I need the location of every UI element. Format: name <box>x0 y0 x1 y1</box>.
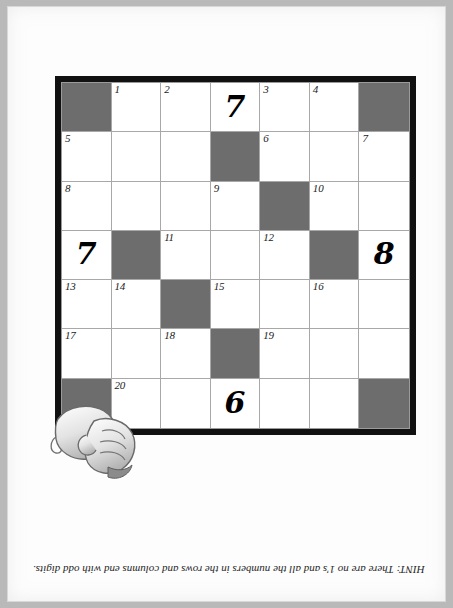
grid-clue-number: 8 <box>65 182 70 195</box>
grid-cell[interactable]: 11 <box>161 231 211 280</box>
grid-given-digit: 7 <box>62 231 111 279</box>
grid-cell[interactable] <box>161 132 211 181</box>
grid-cell[interactable] <box>112 329 162 378</box>
grid-clue-number: 12 <box>263 231 274 244</box>
grid-cell[interactable] <box>112 132 162 181</box>
grid-cell[interactable]: 7 <box>62 231 112 280</box>
grid-cell[interactable]: 18 <box>161 329 211 378</box>
puzzle-grid[interactable]: 12734567891071112813141516171819206 <box>61 82 410 429</box>
grid-given-digit: 6 <box>211 379 260 428</box>
grid-given-digit: 8 <box>359 231 409 279</box>
grid-cell[interactable] <box>310 329 360 378</box>
grid-cell[interactable] <box>359 329 409 378</box>
grid-cell[interactable]: 5 <box>62 132 112 181</box>
grid-cell[interactable]: 6 <box>211 379 261 428</box>
grid-cell-blocked <box>211 132 261 181</box>
grid-cell[interactable] <box>310 132 360 181</box>
page-frame: 12734567891071112813141516171819206 <box>0 0 453 608</box>
grid-cell[interactable]: 2 <box>161 83 211 132</box>
grid-cell[interactable] <box>359 280 409 329</box>
grid-cell-blocked <box>359 379 409 428</box>
grid-cell-blocked <box>359 83 409 132</box>
grid-given-digit: 7 <box>211 83 260 131</box>
grid-clue-number: 18 <box>164 329 175 342</box>
grid-clue-number: 6 <box>263 132 268 145</box>
grid-cell[interactable]: 14 <box>112 280 162 329</box>
grid-clue-number: 14 <box>115 280 126 293</box>
grid-cell[interactable]: 4 <box>310 83 360 132</box>
grid-cell-blocked <box>310 231 360 280</box>
grid-cell[interactable]: 6 <box>260 132 310 181</box>
grid-cell[interactable] <box>260 379 310 428</box>
grid-cell[interactable]: 8 <box>62 182 112 231</box>
grid-clue-number: 20 <box>115 379 126 392</box>
grid-clue-number: 11 <box>164 231 174 244</box>
grid-clue-number: 1 <box>115 83 120 96</box>
grid-clue-number: 13 <box>65 280 76 293</box>
grid-cell[interactable]: 7 <box>211 83 261 132</box>
puzzle-grid-border: 12734567891071112813141516171819206 <box>55 76 416 435</box>
grid-cell-blocked <box>211 329 261 378</box>
grid-cell[interactable]: 16 <box>310 280 360 329</box>
grid-clue-number: 10 <box>313 182 324 195</box>
grid-cell-blocked <box>62 83 112 132</box>
grid-cell[interactable]: 17 <box>62 329 112 378</box>
grid-cell-blocked <box>161 280 211 329</box>
hint-container: HINT: There are no 1's and all the numbe… <box>38 555 420 585</box>
grid-cell[interactable]: 7 <box>359 132 409 181</box>
grid-clue-number: 7 <box>362 132 367 145</box>
grid-cell[interactable]: 19 <box>260 329 310 378</box>
grid-clue-number: 4 <box>313 83 318 96</box>
grid-cell[interactable] <box>211 231 261 280</box>
grid-cell[interactable] <box>260 280 310 329</box>
grid-clue-number: 9 <box>214 182 219 195</box>
grid-clue-number: 3 <box>263 83 268 96</box>
grid-cell-blocked <box>260 182 310 231</box>
grid-cell[interactable]: 3 <box>260 83 310 132</box>
grid-cell-blocked <box>62 379 112 428</box>
grid-cell[interactable]: 20 <box>112 379 162 428</box>
grid-clue-number: 19 <box>263 329 274 342</box>
grid-cell[interactable]: 12 <box>260 231 310 280</box>
grid-cell-blocked <box>112 231 162 280</box>
hint-text: HINT: There are no 1's and all the numbe… <box>33 563 425 577</box>
grid-cell[interactable] <box>112 182 162 231</box>
grid-clue-number: 17 <box>65 329 76 342</box>
grid-cell[interactable]: 8 <box>359 231 409 280</box>
grid-cell[interactable] <box>161 379 211 428</box>
grid-cell[interactable] <box>161 182 211 231</box>
grid-cell[interactable] <box>359 182 409 231</box>
grid-cell[interactable]: 13 <box>62 280 112 329</box>
grid-clue-number: 5 <box>65 132 70 145</box>
grid-cell[interactable]: 10 <box>310 182 360 231</box>
page-sheet: 12734567891071112813141516171819206 <box>7 6 446 602</box>
grid-cell[interactable]: 9 <box>211 182 261 231</box>
grid-clue-number: 2 <box>164 83 169 96</box>
grid-cell[interactable] <box>310 379 360 428</box>
grid-cell[interactable]: 1 <box>112 83 162 132</box>
grid-clue-number: 16 <box>313 280 324 293</box>
grid-cell[interactable]: 15 <box>211 280 261 329</box>
grid-clue-number: 15 <box>214 280 225 293</box>
